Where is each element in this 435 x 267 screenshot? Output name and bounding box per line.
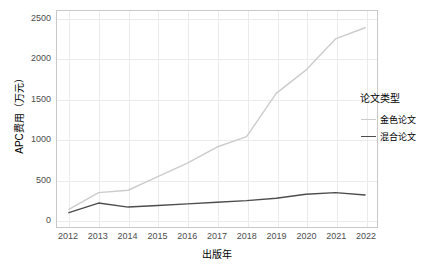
- y-tick-label: 500: [36, 175, 51, 185]
- x-axis-ticks: 2012201320142015201620172018201920202021…: [56, 231, 378, 245]
- x-tick-label: 2017: [207, 231, 227, 241]
- x-tick-label: 2019: [267, 231, 287, 241]
- legend-items: 金色论文混合论文: [360, 111, 435, 145]
- x-tick-label: 2016: [177, 231, 197, 241]
- x-tick-label: 2018: [237, 231, 257, 241]
- y-tick-label: 2500: [31, 13, 51, 23]
- x-tick-label: 2013: [88, 231, 108, 241]
- series-lines: [57, 11, 377, 227]
- x-tick-label: 2020: [296, 231, 316, 241]
- y-tick-label: 1500: [31, 94, 51, 104]
- x-axis-title: 出版年: [56, 246, 378, 261]
- plot-panel: [56, 10, 378, 228]
- x-tick-label: 2012: [58, 231, 78, 241]
- x-tick-label: 2014: [118, 231, 138, 241]
- legend-line-icon: [360, 128, 377, 145]
- legend-title: 论文类型: [360, 90, 435, 105]
- legend-line-icon: [360, 111, 377, 128]
- series-line: [69, 28, 365, 210]
- legend: 论文类型 金色论文混合论文: [360, 90, 435, 145]
- x-tick-label: 2021: [326, 231, 346, 241]
- y-axis-title: APC费用（万元）: [11, 44, 26, 184]
- legend-item-label: 混合论文: [380, 130, 416, 143]
- y-tick-label: 1000: [31, 134, 51, 144]
- legend-item[interactable]: 金色论文: [360, 111, 435, 128]
- x-tick-label: 2015: [147, 231, 167, 241]
- series-line: [69, 193, 365, 213]
- x-tick-label: 2022: [356, 231, 376, 241]
- y-tick-label: 2000: [31, 53, 51, 63]
- chart-container: 05001000150020002500 2012201320142015201…: [0, 0, 435, 267]
- y-tick-label: 0: [46, 215, 51, 225]
- legend-item-label: 金色论文: [380, 113, 416, 126]
- legend-item[interactable]: 混合论文: [360, 128, 435, 145]
